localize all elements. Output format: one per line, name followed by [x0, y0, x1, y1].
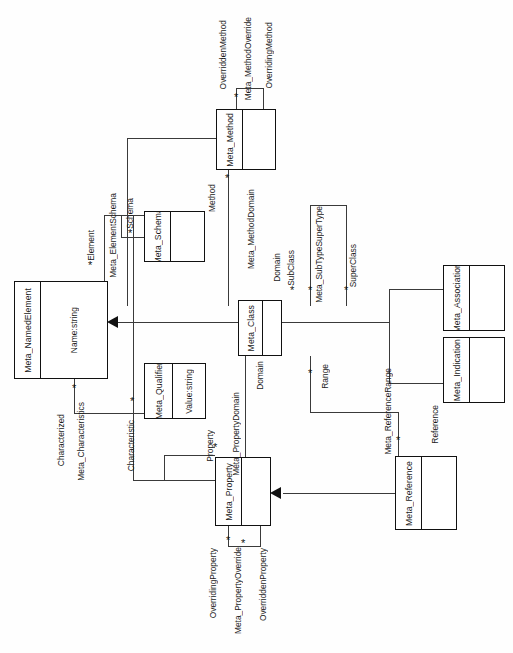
- line-range-v1: [310, 356, 311, 413]
- class-attribute-label: Name:string: [69, 307, 79, 353]
- edge-label-element: Element: [86, 230, 96, 261]
- class-name-label: Meta_Schema: [153, 212, 163, 261]
- edge-label-property-override: Meta_PropertyOverride: [233, 547, 243, 634]
- edge-label-overridden-method: OverriddenMethod: [218, 20, 228, 89]
- multiplicity-star-method: *: [225, 176, 229, 181]
- edge-label-range: Range: [320, 364, 330, 389]
- edge-label-characterized: Characterized: [56, 414, 66, 466]
- class-box-method[interactable]: Meta_Method: [216, 109, 276, 170]
- class-box-indication[interactable]: Meta_Indication: [443, 337, 505, 403]
- class-name-label: Meta_Indication: [452, 339, 462, 401]
- edge-label-reference-range: Meta_ReferenceRange: [383, 368, 393, 455]
- multiplicity-star-prop-ovr-a: *: [226, 538, 230, 543]
- line-elementschema-v2: [121, 215, 122, 238]
- edge-label-characteristics: Meta_Characteristics: [76, 402, 86, 481]
- class-attribute-compartment: [422, 457, 456, 529]
- class-box-reference[interactable]: Meta_Reference: [395, 456, 457, 530]
- class-box-association[interactable]: Meta_Association: [443, 265, 505, 331]
- class-box-property[interactable]: Meta_Property: [215, 457, 271, 526]
- class-attribute-compartment: [470, 266, 504, 330]
- line-methoddomain-v: [228, 170, 229, 306]
- multiplicity-star-element: *: [88, 263, 92, 268]
- line-gen-class-namedelement: [118, 322, 238, 323]
- class-name-label: Meta_Reference: [404, 461, 414, 526]
- line-gen-reference-property: [283, 493, 395, 494]
- class-attribute-compartment: [242, 458, 270, 525]
- class-name-compartment: Meta_Association: [444, 266, 470, 330]
- class-name-compartment: Meta_Reference: [396, 457, 422, 529]
- class-box-qualifier[interactable]: Meta_Qualifier Value:string: [144, 363, 206, 419]
- edge-label-method-override: Meta_MethodOverride: [243, 17, 253, 100]
- class-name-compartment: Meta_Class: [239, 301, 263, 355]
- edge-label-property-domain-end: Domain: [255, 361, 265, 390]
- class-name-compartment: Meta_NamedElement: [15, 282, 41, 378]
- multiplicity-star-superclass: *: [344, 288, 348, 293]
- class-name-label: Meta_NamedElement: [23, 288, 33, 373]
- line-propertydomain-v2: [164, 455, 165, 480]
- edge-label-overriding-property: OverridingProperty: [208, 548, 218, 618]
- generalization-arrow-to-property: [270, 487, 281, 499]
- multiplicity-star-characteristic: *: [130, 399, 134, 404]
- diagram-canvas: Meta_NamedElement Name:string Meta_Schem…: [0, 0, 513, 653]
- generalization-arrow-to-namedelement: [107, 316, 118, 328]
- class-name-label: Meta_Method: [225, 113, 235, 167]
- class-attribute-compartment: [171, 212, 204, 261]
- edge-label-property-domain: Meta_PropertyDomain: [231, 392, 241, 476]
- line-elementschema-v1: [104, 215, 105, 282]
- edge-label-element-schema: Meta_ElementSchema: [108, 193, 118, 278]
- edge-label-subtype-supertype: Meta_SubTypeSuperType: [314, 206, 324, 303]
- edge-label-method: Method: [207, 184, 217, 212]
- multiplicity-star-property: *: [213, 445, 217, 450]
- multiplicity-star-subclass: *: [308, 288, 312, 293]
- multiplicity-star-schema: *: [128, 231, 132, 236]
- class-name-label: Meta_Association: [452, 266, 462, 330]
- class-box-named-element[interactable]: Meta_NamedElement Name:string: [14, 281, 108, 379]
- class-attribute-compartment: [243, 110, 275, 169]
- multiplicity-star-characterized: *: [72, 386, 76, 391]
- class-attribute-compartment: [470, 338, 504, 402]
- edge-label-subclass: SubClass: [286, 250, 296, 286]
- line-propoverride-v2: [260, 525, 261, 547]
- edge-label-reference: Reference: [430, 405, 440, 444]
- class-attribute-compartment: Value:string: [173, 364, 205, 418]
- class-attribute-label: Value:string: [184, 369, 194, 414]
- edge-label-overridden-property: OverriddenProperty: [258, 548, 268, 621]
- class-name-label: Meta_Qualifier: [154, 364, 164, 418]
- multiplicity-star-prop-ovr-b: *: [241, 541, 245, 546]
- class-box-schema[interactable]: Meta_Schema: [144, 211, 205, 262]
- edge-label-schema: Schema: [125, 198, 135, 229]
- edge-label-characteristic: Characteristic: [126, 420, 136, 471]
- line-propertydomain-v1: [245, 356, 246, 457]
- class-name-compartment: Meta_Method: [217, 110, 243, 169]
- class-name-compartment: Meta_Indication: [444, 338, 470, 402]
- line-gen-indication-h: [389, 383, 443, 384]
- line-gen-assoc-h: [389, 289, 443, 290]
- line-gen-assoc-to-named: [280, 322, 390, 323]
- multiplicity-star-range: *: [308, 371, 312, 376]
- edge-label-superclass: SuperClass: [348, 244, 358, 287]
- class-name-label: Meta_Class: [246, 305, 256, 351]
- multiplicity-star-ref-range: *: [396, 438, 400, 443]
- class-name-compartment: Meta_Qualifier: [145, 364, 173, 418]
- class-name-compartment: Meta_Schema: [145, 212, 171, 261]
- line-schema-to-qualifier: [133, 480, 215, 481]
- class-box-class[interactable]: Meta_Class: [238, 300, 282, 356]
- line-methodoverride-v2: [263, 88, 264, 110]
- multiplicity-star-method-ovr: *: [234, 95, 238, 100]
- edge-label-method-domain-end: Domain: [272, 253, 282, 282]
- multiplicity-star-method-domain: *: [290, 288, 294, 293]
- class-attribute-compartment: Name:string: [41, 282, 107, 378]
- edge-label-method-domain: Meta_MethodDomain: [246, 189, 256, 269]
- line-method-h1: [127, 138, 216, 139]
- edge-label-overriding-method: OverridingMethod: [264, 22, 274, 89]
- class-attribute-compartment: [263, 301, 281, 355]
